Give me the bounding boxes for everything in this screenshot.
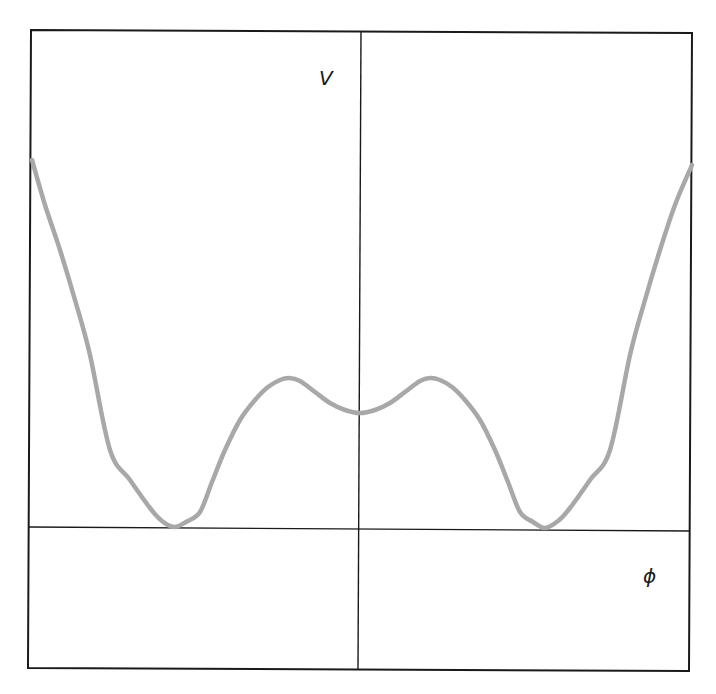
x-axis-line [29,527,690,531]
y-axis-line [358,31,361,669]
y-axis-label: V [319,68,333,88]
potential-diagram [0,0,716,694]
x-axis-label: ϕ [643,566,656,586]
potential-curve [32,160,692,528]
